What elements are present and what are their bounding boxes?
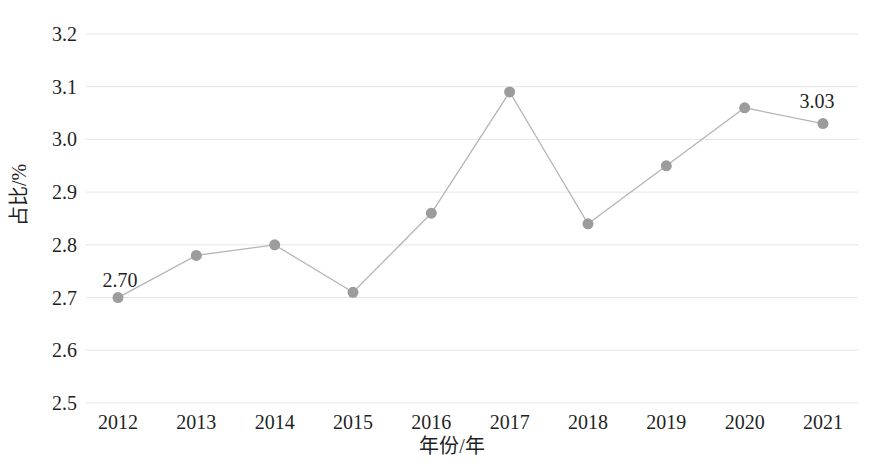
gridlines — [86, 34, 858, 403]
data-point-2017 — [504, 86, 515, 97]
x-tick-label-2021: 2021 — [803, 411, 843, 433]
x-axis-title: 年份/年 — [419, 435, 485, 457]
data-point-2019 — [661, 160, 672, 171]
chart-area: 3.23.13.02.92.82.72.62.5 201220132014201… — [0, 0, 880, 470]
y-tick-label-2.9: 2.9 — [52, 181, 77, 203]
y-tick-label-2.7: 2.7 — [52, 287, 77, 309]
data-label-2021: 3.03 — [799, 90, 834, 112]
y-tick-label-3.2: 3.2 — [52, 23, 77, 45]
y-tick-label-2.8: 2.8 — [52, 234, 77, 256]
data-line-group — [118, 92, 823, 298]
x-tick-label-2013: 2013 — [176, 411, 216, 433]
data-point-2014 — [269, 239, 280, 250]
x-tick-label-2012: 2012 — [98, 411, 138, 433]
data-point-2016 — [426, 208, 437, 219]
x-tick-label-2015: 2015 — [333, 411, 373, 433]
y-axis-title: 占比/% — [8, 164, 30, 226]
data-line — [118, 92, 823, 298]
x-tick-labels: 2012201320142015201620172018201920202021 — [98, 411, 843, 433]
y-tick-label-3.0: 3.0 — [52, 128, 77, 150]
line-chart: 3.23.13.02.92.82.72.62.5 201220132014201… — [0, 0, 880, 470]
data-point-2020 — [739, 102, 750, 113]
x-tick-label-2018: 2018 — [568, 411, 608, 433]
data-point-2018 — [582, 218, 593, 229]
data-point-2013 — [191, 250, 202, 261]
data-label-2012: 2.70 — [103, 269, 138, 291]
y-tick-label-2.5: 2.5 — [52, 392, 77, 414]
x-tick-label-2014: 2014 — [255, 411, 295, 433]
y-tick-labels: 3.23.13.02.92.82.72.62.5 — [52, 23, 77, 414]
data-point-2015 — [347, 287, 358, 298]
x-tick-label-2020: 2020 — [725, 411, 765, 433]
data-labels: 2.703.03 — [103, 90, 835, 291]
x-tick-label-2016: 2016 — [411, 411, 451, 433]
data-point-2012 — [113, 292, 124, 303]
data-points — [113, 86, 829, 303]
x-tick-label-2019: 2019 — [646, 411, 686, 433]
x-tick-label-2017: 2017 — [490, 411, 530, 433]
y-tick-label-2.6: 2.6 — [52, 339, 77, 361]
y-tick-label-3.1: 3.1 — [52, 76, 77, 98]
data-point-2021 — [817, 118, 828, 129]
